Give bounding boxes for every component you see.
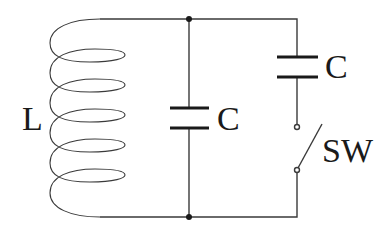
capacitor-right-icon xyxy=(277,57,318,77)
inductor-coil-icon xyxy=(50,19,125,217)
junction-dot-top xyxy=(186,16,192,22)
bottom-wire xyxy=(100,172,297,217)
capacitor-middle-icon xyxy=(170,108,209,128)
circuit-diagram: L C C SW xyxy=(0,0,391,229)
capacitor-middle-label: C xyxy=(217,100,240,137)
inductor-label: L xyxy=(22,100,43,137)
switch-icon xyxy=(295,124,323,173)
capacitor-right-label: C xyxy=(325,48,348,85)
top-wire xyxy=(100,19,297,57)
switch-label: SW xyxy=(322,132,374,169)
junction-dot-bottom xyxy=(186,214,192,220)
